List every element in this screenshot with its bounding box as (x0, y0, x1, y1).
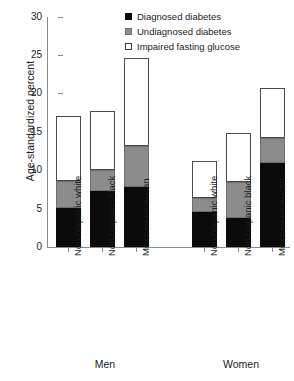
y-tick-mark (58, 93, 63, 94)
bar-segment-impaired-fasting-glucose (260, 88, 285, 138)
group-label-women: Women (211, 358, 271, 370)
x-label-men-mexican-american: Mexican American (140, 178, 151, 256)
chart-legend: Diagnosed diabetes Undiagnosed diabetes … (125, 10, 240, 55)
legend-item-diagnosed-diabetes: Diagnosed diabetes (125, 10, 240, 23)
y-tick-label: 20 (20, 88, 42, 98)
y-tick-25: 25 (16, 55, 42, 56)
group-label-men: Men (75, 358, 135, 370)
white-square-icon (125, 43, 132, 50)
x-label-men-non-hispanic-black: Non-hispanic black (106, 176, 117, 256)
diabetes-prevalence-stacked-bar-chart: Diagnosed diabetes Undiagnosed diabetes … (0, 0, 294, 381)
x-tick-mark (204, 248, 205, 252)
legend-label: Diagnosed diabetes (137, 12, 221, 22)
x-axis-line (47, 247, 290, 248)
x-label-women-non-hispanic-white: Non-hispanic white (208, 176, 219, 256)
black-square-icon (125, 13, 132, 20)
x-tick-mark (68, 248, 69, 252)
y-tick-label: 10 (20, 165, 42, 175)
y-tick-15: 15 (16, 132, 42, 133)
gray-square-icon (125, 28, 132, 35)
legend-label: Impaired fasting glucose (137, 42, 240, 52)
y-tick-5: 5 (16, 209, 42, 210)
x-tick-mark (238, 248, 239, 252)
y-tick-20: 20 (16, 93, 42, 94)
bar-segment-impaired-fasting-glucose (56, 116, 81, 181)
legend-item-undiagnosed-diabetes: Undiagnosed diabetes (125, 25, 240, 38)
legend-label: Undiagnosed diabetes (137, 27, 232, 37)
y-tick-label: 0 (20, 242, 42, 252)
x-label-women-mexican-american: Mexican American (276, 178, 287, 256)
bar-segment-impaired-fasting-glucose (124, 58, 149, 146)
y-axis-line (47, 17, 48, 247)
bar-segment-impaired-fasting-glucose (90, 111, 115, 170)
y-tick-label: 25 (20, 50, 42, 60)
y-tick-10: 10 (16, 170, 42, 171)
y-tick-mark (58, 17, 63, 18)
x-tick-mark (272, 248, 273, 252)
x-tick-mark (102, 248, 103, 252)
x-label-men-non-hispanic-white: Non-hispanic white (72, 176, 83, 256)
legend-item-impaired-fasting-glucose: Impaired fasting glucose (125, 40, 240, 53)
y-tick-label: 15 (20, 127, 42, 137)
x-label-women-non-hispanic-black: Non-hispanic black (242, 176, 253, 256)
y-tick-label: 5 (20, 204, 42, 214)
y-tick-mark (58, 55, 63, 56)
y-tick-0: 0 (16, 247, 42, 248)
y-tick-30: 30 (16, 17, 42, 18)
x-tick-mark (136, 248, 137, 252)
bar-segment-impaired-fasting-glucose (226, 133, 251, 182)
bar-segment-undiagnosed-diabetes (260, 138, 285, 163)
y-tick-label: 30 (20, 12, 42, 22)
